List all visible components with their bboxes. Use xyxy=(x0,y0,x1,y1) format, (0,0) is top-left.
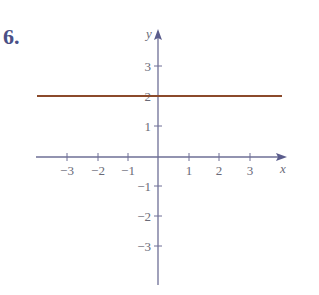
y-tick-label: −3 xyxy=(137,239,151,254)
y-axis-label: y xyxy=(144,26,152,41)
coordinate-plane: −3 −2 −1 1 2 3 3 2 1 −1 −2 −3 x y xyxy=(0,0,319,295)
x-tick-label: 1 xyxy=(186,163,193,178)
x-tick-label: −2 xyxy=(91,163,105,178)
x-tick-label: 2 xyxy=(216,163,223,178)
y-tick-label: 3 xyxy=(145,59,152,74)
x-tick-label: −1 xyxy=(121,163,135,178)
y-tick-label: −2 xyxy=(137,209,151,224)
y-tick-label: −1 xyxy=(137,179,151,194)
x-tick-label: 3 xyxy=(247,163,254,178)
y-tick-label: 1 xyxy=(145,119,152,134)
x-tick-label: −3 xyxy=(60,163,74,178)
x-axis-label: x xyxy=(279,161,286,176)
